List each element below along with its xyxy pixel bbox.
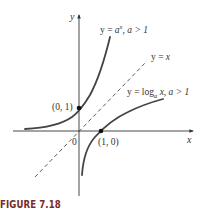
point-0-1-marker: [77, 106, 82, 111]
logarithmic-curve: [82, 99, 163, 175]
y-axis-label: y: [69, 11, 75, 22]
exponential-curve: [25, 37, 110, 129]
figure-caption: FIGURE 7.18: [0, 199, 61, 210]
exp-curve-label: y = ax, a > 1: [100, 23, 148, 35]
origin-label: 0: [72, 137, 77, 147]
identity-line: [35, 61, 147, 177]
x-axis-label: x: [186, 134, 192, 145]
point-0-1-label: (0, 1): [52, 102, 73, 113]
point-1-0-marker: [99, 129, 104, 134]
identity-line-label: y = x: [151, 52, 171, 62]
log-curve-label: y = loga x, a > 1: [127, 87, 189, 99]
figure-graph: y x y = ax, a > 1 y = x y = loga x, a > …: [0, 0, 207, 218]
point-1-0-label: (1, 0): [98, 137, 119, 148]
